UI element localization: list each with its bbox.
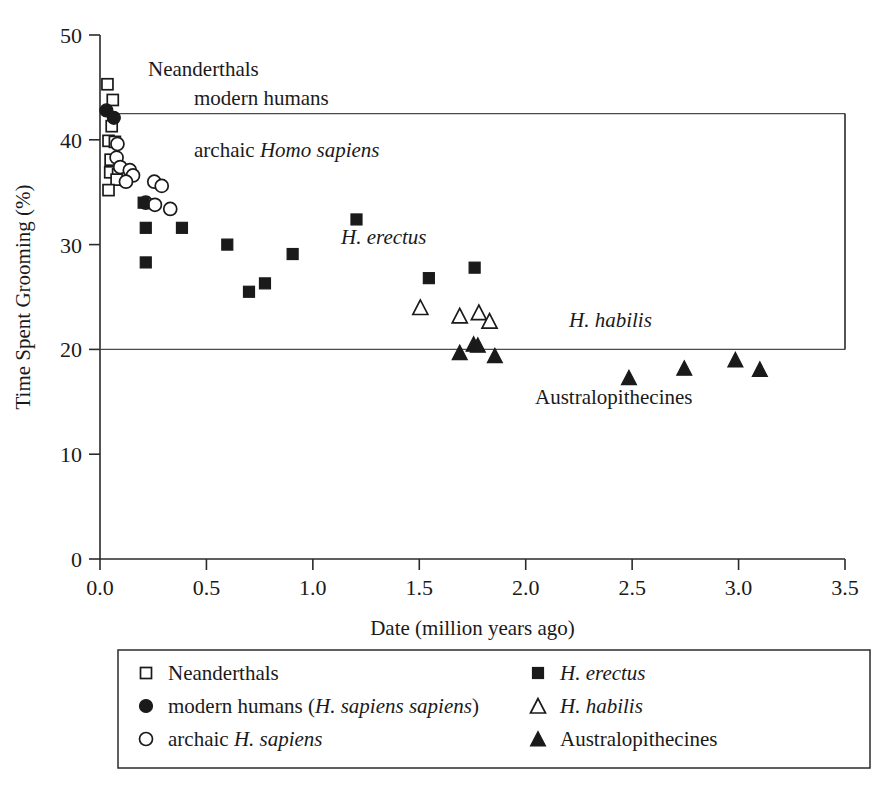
x-tick-label: 1.0 [299, 575, 327, 600]
x-tick-label: 0.0 [86, 575, 114, 600]
annotation-australopithecines: Australopithecines [535, 385, 692, 409]
y-axis-title: Time Spent Grooming (%) [11, 185, 35, 410]
legend-label: H. habilis [559, 694, 643, 718]
y-tick-label: 0 [71, 547, 82, 572]
marker-filled-circle [140, 700, 153, 713]
legend-left-item-1[interactable]: modern humans (H. sapiens sapiens) [140, 694, 479, 718]
annotation-h-habilis: H. habilis [568, 308, 652, 332]
annotation-archaic: archaic Homo sapiens [194, 138, 379, 162]
marker-open-square [103, 185, 114, 196]
marker-open-triangle [471, 305, 486, 320]
marker-filled-square [259, 278, 270, 289]
marker-filled-triangle [621, 370, 636, 385]
marker-filled-triangle [677, 361, 692, 376]
y-tick-label: 50 [60, 23, 82, 48]
marker-open-triangle [413, 300, 428, 315]
legend-label-text: Australopithecines [560, 727, 717, 751]
y-tick-label: 20 [60, 337, 82, 362]
marker-filled-triangle [452, 345, 467, 360]
marker-filled-triangle [752, 362, 767, 377]
annotation-modern-humans: modern humans [194, 86, 329, 110]
legend-label-italic: H. erectus [559, 661, 646, 685]
x-axis-title: Date (million years ago) [370, 616, 575, 640]
annotation-neanderthals: Neanderthals [148, 57, 259, 81]
legend-label-text: modern humans ( [168, 694, 315, 718]
y-tick-label: 40 [60, 128, 82, 153]
marker-filled-circle [107, 111, 120, 124]
legend-label: modern humans (H. sapiens sapiens) [168, 694, 479, 718]
marker-filled-triangle [487, 348, 502, 363]
marker-filled-square [140, 257, 151, 268]
marker-open-circle [164, 202, 177, 215]
marker-open-circle [119, 175, 132, 188]
marker-filled-triangle [728, 352, 743, 367]
x-tick-label: 0.5 [193, 575, 221, 600]
marker-filled-square [533, 668, 544, 679]
legend-label: H. erectus [559, 661, 646, 685]
marker-filled-square [138, 197, 149, 208]
legend-right-item-0[interactable]: H. erectus [533, 661, 646, 685]
series-modern-humans-h-sapiens-sapiens [100, 104, 120, 124]
marker-filled-triangle [531, 732, 546, 747]
marker-filled-square [140, 222, 151, 233]
legend-left-item-0[interactable]: Neanderthals [141, 661, 279, 685]
legend-right-item-1[interactable]: H. habilis [531, 694, 643, 718]
marker-open-square [102, 79, 113, 90]
x-tick-label: 3.0 [725, 575, 753, 600]
series-h-erectus [138, 197, 480, 297]
marker-open-circle [148, 198, 161, 211]
y-tick-label: 30 [60, 233, 82, 258]
marker-filled-square [222, 239, 233, 250]
legend-label-italic: H. sapiens [233, 727, 323, 751]
marker-open-square [141, 668, 152, 679]
marker-filled-square [176, 222, 187, 233]
marker-open-triangle [531, 699, 546, 714]
marker-filled-square [351, 214, 362, 225]
marker-open-triangle [452, 308, 467, 323]
grooming-time-scatter-figure: 010203040500.00.51.01.52.02.53.03.5Date … [0, 0, 882, 785]
series-h-habilis [413, 300, 497, 328]
legend-label: Neanderthals [168, 661, 279, 685]
legend-left-item-2[interactable]: archaic H. sapiens [140, 727, 323, 751]
annotation-h-erectus: H. erectus [340, 225, 427, 249]
x-tick-label: 3.5 [831, 575, 859, 600]
legend-right-item-2[interactable]: Australopithecines [531, 727, 718, 751]
marker-open-circle [140, 733, 153, 746]
y-tick-label: 10 [60, 442, 82, 467]
chart-canvas: 010203040500.00.51.01.52.02.53.03.5Date … [0, 0, 882, 785]
series-australopithecines [452, 337, 767, 385]
legend-label-text: Neanderthals [168, 661, 279, 685]
x-tick-label: 2.5 [618, 575, 646, 600]
annotation-italic-part: Homo sapiens [259, 138, 380, 162]
marker-filled-square [244, 286, 255, 297]
x-tick-label: 2.0 [512, 575, 540, 600]
legend-label: archaic H. sapiens [168, 727, 323, 751]
marker-filled-square [469, 262, 480, 273]
legend-label: Australopithecines [560, 727, 717, 751]
marker-open-circle [155, 179, 168, 192]
legend-label-italic: H. sapiens sapiens [314, 694, 472, 718]
marker-filled-square [287, 249, 298, 260]
marker-open-circle [111, 137, 124, 150]
x-tick-label: 1.5 [406, 575, 434, 600]
legend-label-text: archaic [168, 727, 234, 751]
legend-label-italic: H. habilis [559, 694, 643, 718]
marker-filled-square [423, 273, 434, 284]
legend-label-tail: ) [472, 694, 479, 718]
